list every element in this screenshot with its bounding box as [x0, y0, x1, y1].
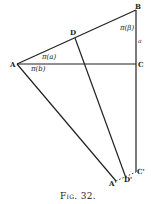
- figure-caption: Fig. 32.: [60, 192, 96, 201]
- line-AA-prime: [17, 64, 116, 181]
- point-label-D-prime: D': [124, 176, 132, 183]
- point-label-C: C: [138, 61, 144, 68]
- figure-32: B D A C A' D' C' π(β) π(a) π(b) a Fig. 3…: [0, 0, 151, 204]
- line-AB: [17, 10, 136, 64]
- angle-label-pi-a: π(a): [42, 54, 56, 61]
- angle-label-pi-b: π(b): [31, 66, 46, 73]
- point-label-A: A: [10, 61, 15, 68]
- angle-label-pi-beta: π(β): [120, 25, 134, 32]
- point-label-D: D: [70, 29, 76, 36]
- point-label-B: B: [135, 3, 141, 10]
- side-label-a: a: [138, 38, 142, 44]
- point-label-C-prime: C': [137, 168, 145, 175]
- point-label-A-prime: A': [109, 180, 117, 187]
- line-DD-prime: [75, 38, 126, 178]
